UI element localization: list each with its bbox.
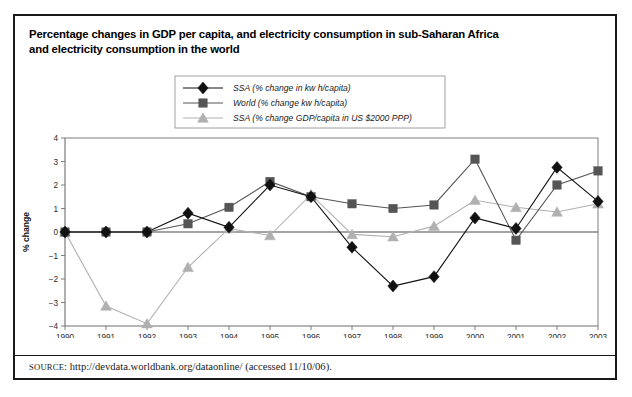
y-axis-label: % change xyxy=(21,212,31,252)
x-tick-label: 2001 xyxy=(507,333,526,338)
data-point-1-13 xyxy=(594,167,602,175)
x-tick-label: 2002 xyxy=(548,333,567,338)
legend-marker xyxy=(199,99,207,107)
data-point-0-9 xyxy=(429,271,439,283)
data-point-1-11 xyxy=(512,236,520,244)
line-chart: SSA (% change in kw h/capita)World (% ch… xyxy=(15,70,615,338)
x-tick-label: 1997 xyxy=(343,333,362,338)
x-tick-label: 1994 xyxy=(220,333,239,338)
source-text: : http://devdata.worldbank.org/dataonlin… xyxy=(64,361,332,372)
data-point-0-8 xyxy=(388,280,398,292)
y-tick-label: 0 xyxy=(53,228,58,237)
data-point-1-7 xyxy=(348,200,356,208)
data-point-2-1 xyxy=(101,301,112,311)
figure-panel: Percentage changes in GDP per capita, an… xyxy=(13,14,617,380)
x-tick-label: 2000 xyxy=(466,333,485,338)
series-line-2 xyxy=(65,194,598,323)
y-tick-label: −1 xyxy=(49,252,59,261)
figure-title-line-1: Percentage changes in GDP per capita, an… xyxy=(29,27,589,42)
data-point-1-12 xyxy=(553,181,561,189)
data-point-1-8 xyxy=(389,204,397,212)
x-tick-label: 1990 xyxy=(56,333,75,338)
x-tick-label: 1991 xyxy=(97,333,116,338)
data-point-2-10 xyxy=(470,195,481,205)
y-tick-label: −3 xyxy=(49,299,59,308)
y-tick-label: 2 xyxy=(53,181,58,190)
legend-label: World (% change kw h/capita) xyxy=(233,98,347,108)
x-tick-label: 1998 xyxy=(384,333,403,338)
figure-title-line-2: and electricity consumption in the world xyxy=(29,42,589,57)
y-tick-label: 1 xyxy=(53,205,58,214)
legend-label: SSA (% change in kw h/capita) xyxy=(233,83,351,93)
legend-label: SSA (% change GDP/capita in US $2000 PPP… xyxy=(233,113,412,123)
x-tick-label: 1995 xyxy=(261,333,280,338)
data-point-2-2 xyxy=(142,318,153,328)
data-point-1-10 xyxy=(471,155,479,163)
y-tick-label: −4 xyxy=(49,322,59,331)
source-divider xyxy=(15,355,615,356)
x-tick-label: 1992 xyxy=(138,333,157,338)
y-tick-label: −2 xyxy=(49,275,59,284)
y-tick-label: 3 xyxy=(53,158,58,167)
y-tick-label: 4 xyxy=(53,134,58,143)
data-point-1-4 xyxy=(225,203,233,211)
source-label: SOURCE xyxy=(29,362,64,372)
data-point-1-9 xyxy=(430,201,438,209)
data-point-1-3 xyxy=(184,220,192,228)
x-tick-label: 2003 xyxy=(589,333,608,338)
data-point-2-9 xyxy=(429,221,440,231)
source-note: SOURCE: http://devdata.worldbank.org/dat… xyxy=(29,361,332,372)
data-point-0-3 xyxy=(183,207,193,219)
chart-area: SSA (% change in kw h/capita)World (% ch… xyxy=(15,70,615,338)
data-point-0-10 xyxy=(470,212,480,224)
x-tick-label: 1993 xyxy=(179,333,198,338)
figure-title: Percentage changes in GDP per capita, an… xyxy=(29,27,589,56)
x-tick-label: 1999 xyxy=(425,333,444,338)
x-tick-label: 1996 xyxy=(302,333,321,338)
data-point-0-12 xyxy=(552,161,562,173)
